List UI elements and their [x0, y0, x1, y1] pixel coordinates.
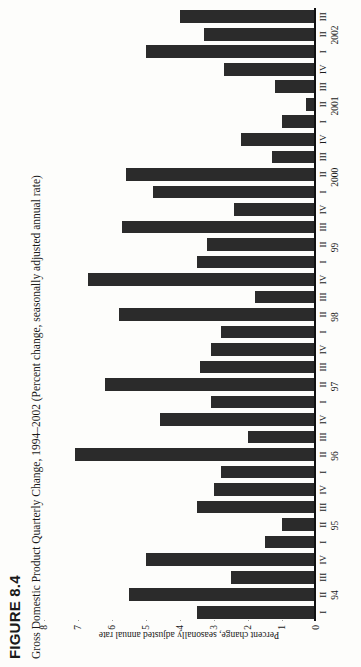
bar [282, 116, 316, 129]
bar [282, 518, 316, 531]
year-tick-label [330, 395, 346, 412]
y-tick-label: 7 [73, 625, 83, 630]
bar [211, 343, 316, 356]
bar-slot [44, 586, 316, 604]
bar-slot [44, 8, 316, 26]
bar [265, 536, 316, 549]
bar [197, 256, 316, 269]
year-tick-label [330, 44, 346, 61]
year-tick-label [330, 221, 346, 238]
plot-area: Percent change, seasonally adjusted annu… [44, 0, 361, 667]
bar [272, 151, 316, 164]
bar [153, 186, 316, 199]
bar [200, 361, 316, 374]
bar-slot [44, 253, 316, 271]
bar-slot [44, 271, 316, 289]
figure-title: Gross Domestic Product Quarterly Change,… [30, 175, 42, 659]
bar-slot [44, 603, 316, 621]
y-tick-label: 3 [209, 625, 219, 630]
bar-slot [44, 463, 316, 481]
bar [207, 238, 316, 251]
bar [204, 28, 316, 41]
bar [119, 308, 316, 321]
bar [221, 326, 316, 339]
year-tick-label: 95 [330, 517, 346, 534]
year-tick-label [330, 8, 346, 25]
year-tick-label [330, 187, 346, 204]
year-tick-label [330, 552, 346, 569]
bar [231, 571, 316, 584]
bar-slot [44, 376, 316, 394]
bar-slot [44, 481, 316, 499]
bar-slot [44, 131, 316, 149]
bar [197, 501, 316, 514]
bar-slot [44, 96, 316, 114]
figure-canvas: FIGURE 8.4 Gross Domestic Product Quarte… [0, 0, 361, 667]
year-tick-label [330, 569, 346, 586]
bar-slot [44, 428, 316, 446]
bar-slot [44, 183, 316, 201]
y-tick-label: 2 [243, 625, 253, 630]
bar [129, 588, 316, 601]
bar [241, 133, 316, 146]
year-tick-label [330, 499, 346, 516]
year-tick-label [330, 430, 346, 447]
year-tick-label [330, 79, 346, 96]
bar-slot [44, 323, 316, 341]
year-tick-label [330, 326, 346, 343]
bar-slot [44, 148, 316, 166]
year-tick-label [330, 291, 346, 308]
year-tick-label [330, 482, 346, 499]
bar-slot [44, 568, 316, 586]
bar [122, 221, 316, 234]
bar [275, 80, 316, 93]
y-tick-label: 8 [39, 625, 49, 630]
year-tick-label [330, 116, 346, 133]
figure-number: FIGURE 8.4 [6, 175, 23, 659]
bar-slot [44, 201, 316, 219]
y-axis-ticks: 012345678 [44, 623, 316, 645]
year-tick-label [330, 274, 346, 291]
bar-slot [44, 516, 316, 534]
y-tick-label: 1 [277, 625, 287, 630]
bar-slot [44, 43, 316, 61]
year-tick-label [330, 604, 346, 621]
bar [105, 378, 316, 391]
bar-slot [44, 341, 316, 359]
y-tick-label: 6 [107, 625, 117, 630]
bar-slot [44, 78, 316, 96]
year-tick-label: 97 [330, 378, 346, 395]
bar-slot [44, 218, 316, 236]
year-tick-label [330, 343, 346, 360]
bar [214, 483, 316, 496]
bar-slot [44, 498, 316, 516]
year-tick-label [330, 360, 346, 377]
bar [75, 448, 316, 461]
bar [146, 45, 316, 58]
bar-slot [44, 551, 316, 569]
year-tick-label: 2000 [330, 168, 346, 187]
bar-slot [44, 288, 316, 306]
bar [224, 63, 316, 76]
bar-slot [44, 61, 316, 79]
y-tick-label: 0 [311, 625, 321, 630]
bar-panel [44, 8, 316, 621]
year-tick-label: 98 [330, 308, 346, 325]
year-tick-label [330, 150, 346, 167]
bar-slot [44, 306, 316, 324]
bar-slot [44, 411, 316, 429]
year-tick-label: 2001 [330, 97, 346, 116]
year-tick-label: 2002 [330, 25, 346, 44]
bar [160, 413, 316, 426]
year-tick-label: 99 [330, 239, 346, 256]
zero-axis-line [314, 8, 316, 621]
year-tick-label: 94 [330, 586, 346, 603]
bar-slot [44, 25, 316, 43]
year-tick-label [330, 534, 346, 551]
bar [146, 553, 316, 566]
bar [221, 466, 316, 479]
rotated-figure: FIGURE 8.4 Gross Domestic Product Quarte… [0, 0, 361, 667]
year-tick-label: 96 [330, 447, 346, 464]
year-tick-label [330, 204, 346, 221]
bar-slot [44, 113, 316, 131]
